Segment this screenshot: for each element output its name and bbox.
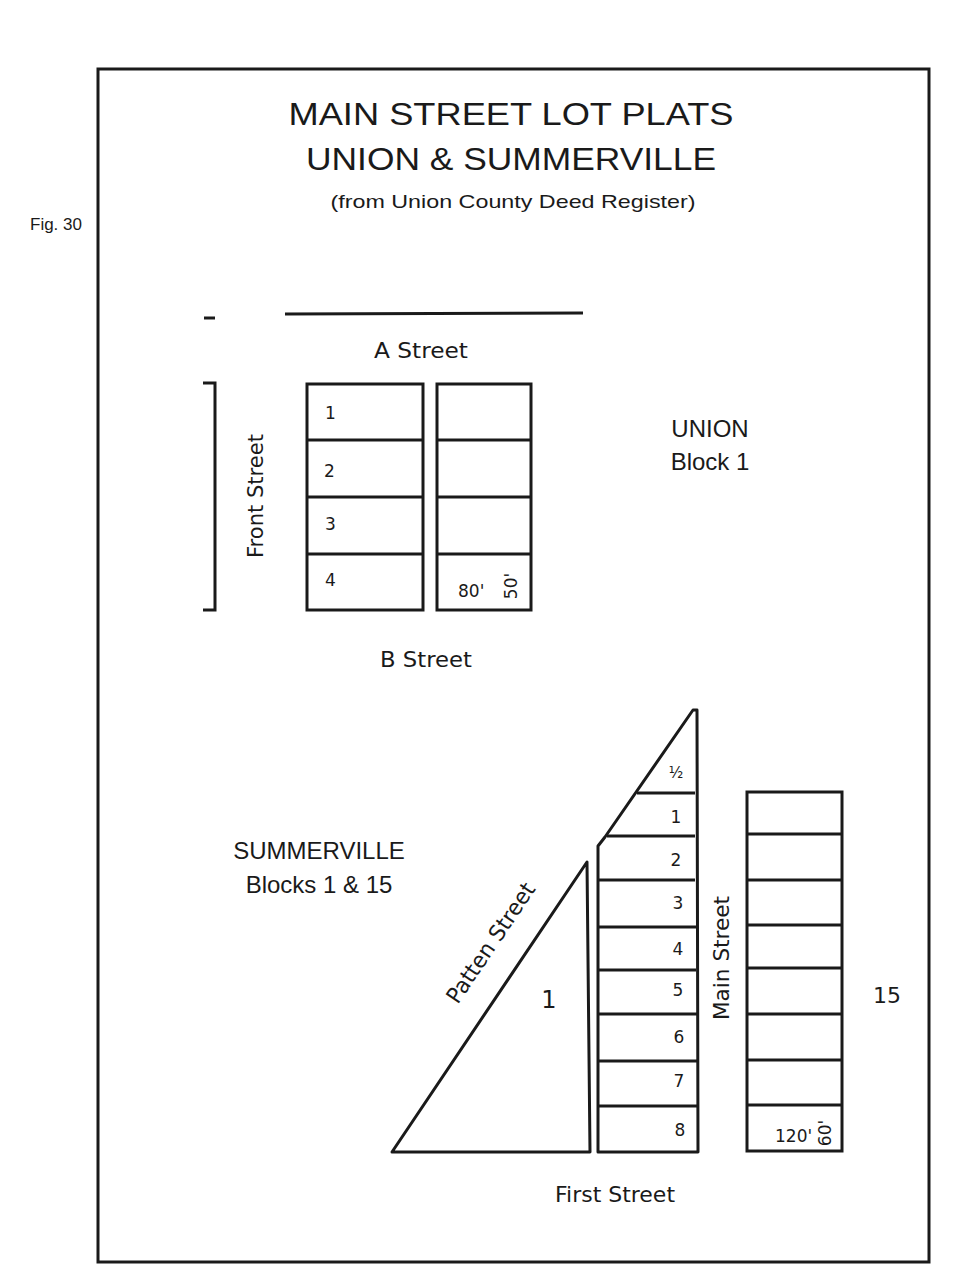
summerville-lot-number: 7 <box>674 1071 685 1091</box>
title-source: (from Union County Deed Register) <box>331 191 696 212</box>
union-block-label: Block 1 <box>671 448 750 475</box>
title-line-1: MAIN STREET LOT PLATS <box>289 96 734 132</box>
summerville-lot-depth: 120' <box>775 1126 812 1146</box>
block-15-lot-column <box>747 792 842 1151</box>
figure-frame <box>98 69 929 1262</box>
summerville-blocks-label: Blocks 1 & 15 <box>246 871 393 898</box>
union-block-1: A Street Front Street 1 2 3 4 80' 50' B … <box>203 313 749 672</box>
block-1-triangle <box>392 862 590 1152</box>
block-1-label: 1 <box>541 986 556 1014</box>
union-lot-frontage: 50' <box>501 573 521 599</box>
summerville-lot-number: ½ <box>669 764 684 782</box>
first-street-label: First Street <box>555 1182 675 1207</box>
summerville-lot-number: 5 <box>673 980 684 1000</box>
union-town-label: UNION <box>671 415 748 442</box>
figure-label: Fig. 30 <box>30 215 82 234</box>
summerville-lot-number: 6 <box>674 1027 685 1047</box>
main-street-label: Main Street <box>709 896 734 1020</box>
summerville-town-label: SUMMERVILLE <box>233 837 405 864</box>
patten-street-label: Patten Street <box>441 877 540 1007</box>
summerville-lot-number: 1 <box>671 807 682 827</box>
b-street-label: B Street <box>380 647 472 672</box>
summerville-lot-number: 2 <box>671 850 682 870</box>
a-street-label: A Street <box>374 338 468 363</box>
union-lot-number: 1 <box>325 403 336 423</box>
union-lot-number: 3 <box>325 514 336 534</box>
summerville-lot-frontage: 60' <box>815 1120 835 1146</box>
lot-plat-diagram: Fig. 30 MAIN STREET LOT PLATS UNION & SU… <box>0 0 965 1273</box>
summerville-lot-number: 4 <box>673 939 684 959</box>
front-street-label: Front Street <box>243 434 268 558</box>
summerville-lot-number: 8 <box>675 1120 686 1140</box>
union-lot-number: 4 <box>325 570 336 590</box>
title-line-2: UNION & SUMMERVILLE <box>306 141 716 177</box>
union-lot-depth: 80' <box>458 581 484 601</box>
a-street-line <box>285 313 583 314</box>
summerville-blocks: SUMMERVILLE Blocks 1 & 15 1 Patten Stree… <box>233 710 901 1207</box>
union-lot-number: 2 <box>324 461 335 481</box>
block-15-label: 15 <box>873 983 901 1008</box>
front-street-line <box>203 383 215 610</box>
summerville-lot-number: 3 <box>673 893 684 913</box>
